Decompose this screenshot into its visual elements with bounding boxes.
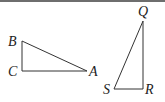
triangle-qrs-outline (114, 21, 143, 89)
vertex-label-a: A (88, 64, 98, 79)
triangles-diagram: B C A Q R S (0, 0, 165, 102)
vertex-label-c: C (8, 64, 18, 79)
vertex-label-q: Q (138, 4, 148, 19)
vertex-label-b: B (8, 34, 17, 49)
triangle-abc: B C A (8, 34, 98, 79)
triangle-abc-outline (22, 41, 87, 71)
vertex-label-r: R (144, 82, 154, 97)
vertex-label-s: S (103, 82, 110, 97)
triangle-qrs: Q R S (103, 4, 154, 97)
